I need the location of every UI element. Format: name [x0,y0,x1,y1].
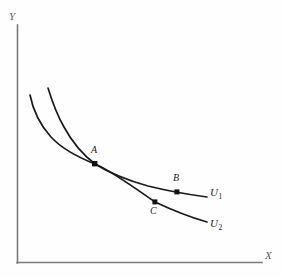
curve-label-u2-base: U [210,217,218,229]
point-label-c: C [150,206,157,216]
curve-label-u1-subscript: 1 [218,192,222,201]
curve-label-u1-base: U [210,186,218,198]
curve-u1 [48,88,207,197]
point-label-a: A [91,145,97,155]
y-axis-label: Y [9,11,15,22]
point-label-b: B [173,173,179,183]
point-marker-c [152,199,157,204]
curve-label-u2-subscript: 2 [218,223,222,232]
curve-label-u1: U1 [210,187,222,201]
x-axis-label: X [265,250,272,261]
indifference-curve-figure: Y X A B C U1 U2 [0,0,283,277]
figure-canvas [0,0,283,277]
curve-u2 [30,95,207,222]
curve-label-u2: U2 [210,218,222,232]
point-marker-b [174,189,179,194]
point-marker-a [92,161,97,166]
